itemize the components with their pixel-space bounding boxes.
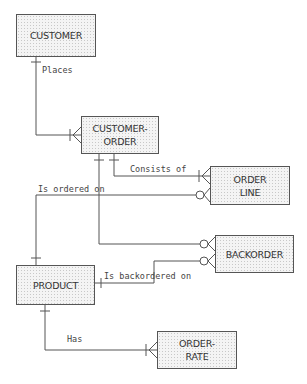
- crows-foot-backorder-top: [208, 237, 215, 251]
- label-consists-of: Consists of: [130, 164, 186, 174]
- entity-customer-order: CUSTOMER- ORDER: [81, 116, 159, 154]
- zero-circle-backorder-top: [200, 240, 208, 248]
- entity-order-rate-label: ORDER- RATE: [179, 337, 215, 363]
- has-line: [45, 305, 157, 350]
- zero-circle-backorder-bottom: [200, 257, 208, 265]
- entity-backorder-label: BACKORDER: [226, 248, 283, 261]
- entity-order-line: ORDER LINE: [210, 166, 290, 205]
- entity-order-rate: ORDER- RATE: [157, 331, 237, 369]
- entity-customer-order-label: CUSTOMER- ORDER: [93, 122, 148, 148]
- label-places: Places: [42, 65, 73, 75]
- label-is-backordered-on: Is backordered on: [104, 271, 191, 281]
- zero-circle-order-line: [196, 191, 204, 199]
- is-ordered-on-line: [36, 195, 196, 265]
- entity-product-label: PRODUCT: [33, 279, 78, 292]
- entity-customer: CUSTOMER: [16, 14, 96, 57]
- crows-foot-backorder-bottom: [208, 254, 215, 268]
- entity-product: PRODUCT: [16, 265, 95, 305]
- entity-customer-label: CUSTOMER: [30, 29, 82, 42]
- entity-backorder: BACKORDER: [215, 235, 294, 273]
- label-is-ordered-on: Is ordered on: [38, 184, 105, 194]
- entity-order-line-label: ORDER LINE: [234, 173, 267, 199]
- label-has: Has: [67, 334, 82, 344]
